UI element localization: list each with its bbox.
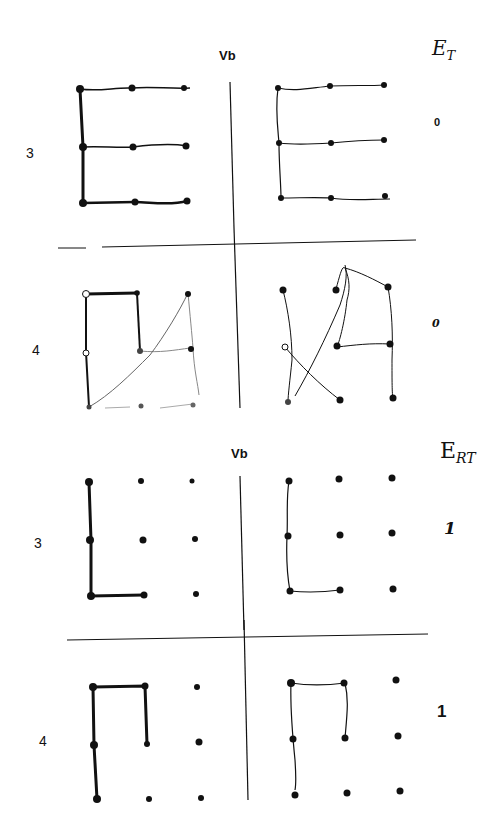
score-header-sub: T: [447, 48, 456, 63]
row-score: 0: [434, 116, 440, 128]
score-header: ET: [432, 36, 455, 63]
row-label: 4: [32, 342, 40, 358]
model-figure-L: [89, 482, 144, 596]
model-figure-hook-bottom: [93, 686, 147, 799]
copy-figure-distorted: [283, 265, 393, 402]
row-score: 0: [432, 317, 440, 330]
row-label: 4: [39, 733, 47, 749]
figure-drawings: [0, 0, 503, 835]
row-score: 1: [444, 518, 456, 538]
vertical-divider: [230, 82, 234, 228]
copy-figure-hook-bottom: [291, 683, 348, 790]
horizontal-divider: [102, 240, 416, 247]
copy-figure-L: [287, 481, 340, 592]
grid-dots-panel-1: [76, 82, 397, 410]
score-header-main: E: [440, 438, 456, 463]
column-label: Vb: [231, 446, 248, 461]
score-header: ERT: [440, 438, 476, 466]
row-score: 1: [437, 702, 446, 722]
score-header-main: E: [432, 36, 447, 60]
row-label: 3: [26, 145, 34, 161]
column-label: Vb: [219, 48, 236, 63]
score-header-sub: RT: [456, 450, 476, 466]
row-label: 3: [34, 535, 42, 551]
